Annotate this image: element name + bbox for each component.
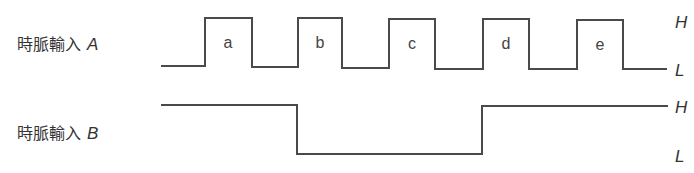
level-high-b: H <box>675 98 687 118</box>
signal-symbol: B <box>87 124 98 143</box>
pulse-label-e: e <box>596 36 605 54</box>
signal-label-text: 時脈輸入 <box>17 124 81 143</box>
timing-diagram <box>0 0 694 173</box>
signal-symbol: A <box>87 35 98 54</box>
level-low-b: L <box>675 147 684 167</box>
waveform-clock-b <box>161 105 668 154</box>
level-high-a: H <box>675 13 687 33</box>
level-low-a: L <box>675 61 684 81</box>
signal-label-text: 時脈輸入 <box>17 35 81 54</box>
signal-label-b: 時脈輸入B <box>17 120 98 144</box>
signal-label-a: 時脈輸入A <box>17 31 98 55</box>
pulse-label-c: c <box>408 35 416 53</box>
pulse-label-a: a <box>224 34 233 52</box>
pulse-label-d: d <box>502 35 511 53</box>
pulse-label-b: b <box>316 34 325 52</box>
